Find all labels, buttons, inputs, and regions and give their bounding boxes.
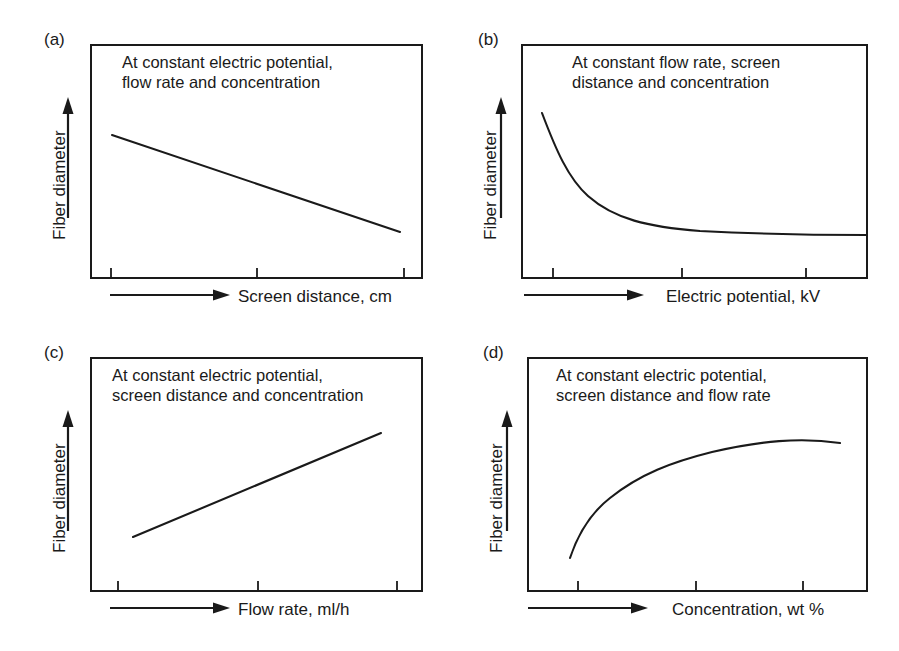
panel-c-y-axis-label: Fiber diameter (50, 443, 70, 553)
figure-root: (a) At constant electric potential, flow… (0, 0, 899, 651)
panel-c-caption-line2: screen distance and concentration (112, 385, 363, 405)
panel-c-label: (c) (44, 343, 64, 363)
panel-d-caption-line2: screen distance and flow rate (556, 385, 771, 405)
panel-d-y-axis-label: Fiber diameter (487, 443, 507, 553)
panel-d-caption-line1: At constant electric potential, (556, 365, 767, 385)
panel-b-x-axis-label: Electric potential, kV (666, 287, 820, 307)
panel-b-label: (b) (478, 30, 499, 50)
panel-a-label: (a) (44, 30, 65, 50)
panel-c-x-axis-label: Flow rate, ml/h (238, 600, 349, 620)
panel-b-y-axis-label: Fiber diameter (481, 130, 501, 240)
panel-b-caption-line2: distance and concentration (572, 72, 769, 92)
panel-a-x-axis-label: Screen distance, cm (238, 287, 392, 307)
panel-c-caption-line1: At constant electric potential, (112, 365, 323, 385)
panel-a-caption-line2: flow rate and concentration (122, 72, 320, 92)
panel-a-x-axis-arrow (110, 290, 230, 301)
panel-d-x-axis-arrow (528, 603, 648, 614)
panel-a-y-axis-label: Fiber diameter (50, 130, 70, 240)
panel-b-caption-line1: At constant flow rate, screen (572, 52, 780, 72)
panel-b-x-axis-arrow (524, 290, 644, 301)
panel-d-label: (d) (483, 343, 504, 363)
panel-d-x-axis-label: Concentration, wt % (672, 600, 824, 620)
panel-a-caption-line1: At constant electric potential, (122, 52, 333, 72)
panel-c-x-axis-arrow (110, 603, 230, 614)
